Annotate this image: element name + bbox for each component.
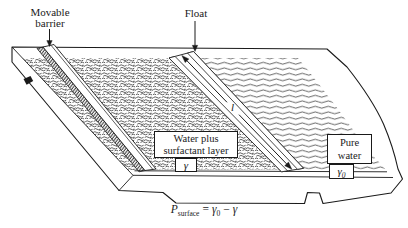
float-length-symbol: l: [231, 102, 234, 113]
label-box-surfactant: Water plus surfactant layer: [154, 131, 238, 158]
caption-equals: =: [202, 203, 209, 215]
caption-minus: −: [223, 203, 230, 215]
label-box-pure-water: Pure water: [327, 134, 372, 164]
caption-gamma: γ: [233, 203, 238, 215]
figure-canvas: Movable barrier Float l Water plus surfa…: [0, 0, 408, 228]
caption-gamma0-sub: 0: [216, 209, 220, 218]
pure-water-gamma0-sub: 0: [342, 171, 346, 180]
langmuir-trough-illustration: [0, 0, 408, 228]
label-box-pure-water-gamma0: γ0: [329, 164, 354, 180]
caption-p-sub: surface: [178, 209, 200, 218]
callout-float: Float: [185, 8, 208, 19]
callout-movable-barrier: Movable barrier: [30, 7, 69, 28]
caption-formula: Psurface=γ0−γ: [171, 202, 238, 221]
caption-p: P: [171, 203, 178, 215]
label-box-surfactant-gamma: γ: [175, 158, 197, 172]
